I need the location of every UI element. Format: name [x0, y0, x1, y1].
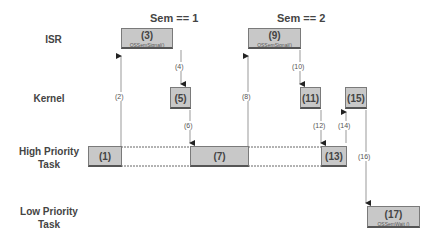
box-3-sublabel: OSSemSignal() [122, 42, 172, 48]
box-5-label: (5) [171, 93, 190, 105]
box-3-label: (3) [122, 30, 172, 42]
box-5: (5) [170, 87, 191, 109]
box-7-label: (7) [191, 151, 248, 163]
box-9: (9) OSSemSignal() [248, 28, 301, 49]
box-11-label: (11) [301, 93, 320, 105]
box-9-label: (9) [249, 30, 300, 42]
box-13-label: (13) [322, 151, 346, 163]
header-sem-2: Sem == 2 [277, 12, 325, 24]
step-6: (6) [183, 121, 194, 130]
row-label-isr: ISR [40, 33, 67, 46]
box-1: (1) [88, 146, 122, 167]
box-15: (15) [345, 87, 367, 109]
box-11: (11) [300, 87, 321, 109]
box-3: (3) OSSemSignal() [121, 28, 173, 49]
row-label-high-line1: High Priority [19, 146, 79, 157]
box-17: (17) OSSemWait () [367, 206, 420, 228]
step-4: (4) [174, 62, 185, 71]
step-2: (2) [114, 92, 125, 101]
step-10: (10) [291, 62, 305, 71]
box-7: (7) [190, 146, 249, 167]
step-14: (14) [337, 121, 351, 130]
header-sem-1: Sem == 1 [150, 12, 198, 24]
row-label-kernel: Kernel [30, 92, 68, 105]
row-label-high-line2: Task [38, 159, 60, 170]
box-1-label: (1) [89, 151, 121, 163]
box-17-label: (17) [368, 209, 419, 221]
step-8: (8) [241, 92, 252, 101]
row-label-low-line2: Task [38, 219, 60, 230]
row-label-high-priority: High Priority Task [14, 145, 84, 171]
box-13: (13) [321, 146, 347, 167]
box-9-sublabel: OSSemSignal() [249, 42, 300, 48]
box-15-label: (15) [346, 93, 366, 105]
step-12: (12) [312, 121, 326, 130]
step-16: (16) [357, 152, 371, 161]
row-label-low-line1: Low Priority [20, 206, 78, 217]
box-17-sublabel: OSSemWait () [368, 221, 419, 227]
row-label-low-priority: Low Priority Task [14, 205, 84, 231]
